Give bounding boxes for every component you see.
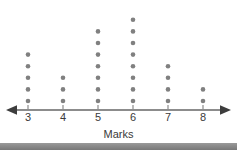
x-axis-tick-label: 8 bbox=[200, 111, 206, 123]
dot-columns-group bbox=[26, 18, 206, 104]
x-axis-tick-label: 6 bbox=[130, 111, 136, 123]
data-dot bbox=[96, 64, 101, 69]
data-dot bbox=[131, 99, 136, 104]
axis-arrow-left-icon bbox=[6, 105, 17, 115]
data-dot bbox=[96, 29, 101, 34]
data-dot bbox=[26, 52, 31, 57]
x-axis-tick-label: 7 bbox=[165, 111, 171, 123]
data-dot bbox=[26, 64, 31, 69]
data-dot bbox=[131, 29, 136, 34]
dot-column bbox=[166, 64, 171, 103]
data-dot bbox=[96, 52, 101, 57]
data-dot bbox=[201, 87, 206, 92]
data-dot bbox=[131, 64, 136, 69]
x-axis-tick-label: 5 bbox=[95, 111, 101, 123]
data-dot bbox=[61, 76, 66, 81]
data-dot bbox=[96, 76, 101, 81]
x-axis-tick-label: 4 bbox=[60, 111, 66, 123]
dot-column bbox=[201, 87, 206, 103]
data-dot bbox=[166, 87, 171, 92]
dot-column bbox=[26, 52, 31, 103]
dot-column bbox=[96, 29, 101, 103]
x-axis-tick-label: 3 bbox=[25, 111, 31, 123]
data-dot bbox=[96, 41, 101, 46]
data-dot bbox=[131, 52, 136, 57]
data-dot bbox=[26, 87, 31, 92]
axis-arrow-right-icon bbox=[220, 105, 231, 115]
data-dot bbox=[131, 87, 136, 92]
data-dot bbox=[131, 76, 136, 81]
data-dot bbox=[201, 99, 206, 104]
data-dot bbox=[131, 18, 136, 23]
data-dot bbox=[26, 99, 31, 104]
x-axis-title: Marks bbox=[104, 128, 134, 140]
data-dot bbox=[96, 87, 101, 92]
data-dot bbox=[131, 41, 136, 46]
dot-column bbox=[61, 76, 66, 104]
data-dot bbox=[61, 99, 66, 104]
data-dot bbox=[166, 76, 171, 81]
dot-plot-figure: 345678 Marks bbox=[0, 0, 237, 152]
page-edge-bar bbox=[0, 143, 237, 150]
dot-plot-canvas: 345678 Marks bbox=[0, 0, 237, 152]
data-dot bbox=[96, 99, 101, 104]
data-dot bbox=[166, 64, 171, 69]
x-axis-group bbox=[6, 105, 231, 115]
data-dot bbox=[26, 76, 31, 81]
dot-column bbox=[131, 18, 136, 104]
data-dot bbox=[166, 99, 171, 104]
x-axis-tick-labels-group: 345678 bbox=[25, 111, 206, 123]
data-dot bbox=[61, 87, 66, 92]
